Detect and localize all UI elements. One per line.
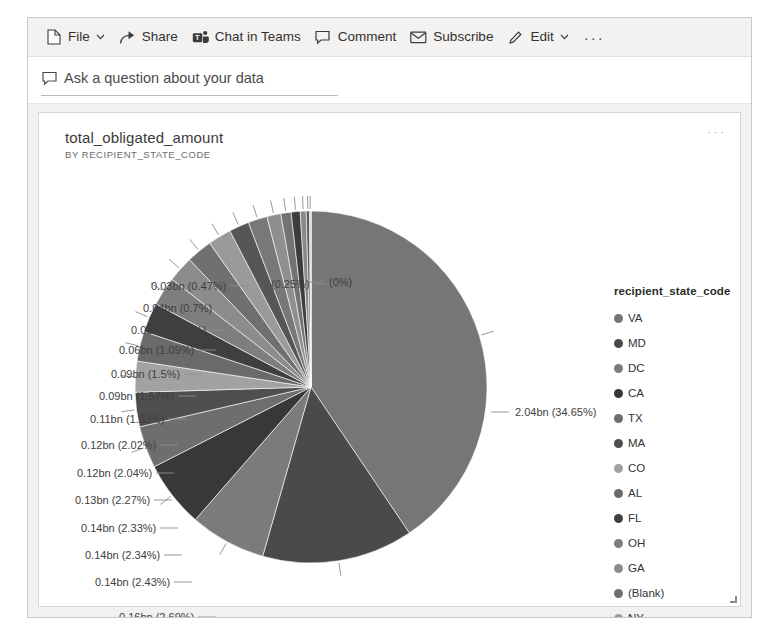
visual-resize-handle[interactable]: [730, 596, 737, 603]
pie-data-label: 0.05bn (0.81%): [131, 325, 206, 336]
leader-line: [253, 205, 257, 217]
legend-item-label: CA: [628, 388, 644, 400]
report-canvas: total_obligated_amount BY RECIPIENT_STAT…: [28, 104, 751, 617]
legend-item-ny[interactable]: NY: [614, 606, 752, 618]
legend-swatch-icon: [614, 364, 623, 373]
legend-item-label: MD: [628, 338, 646, 350]
legend-swatch-icon: [614, 439, 623, 448]
command-bar: File Share T C: [28, 18, 751, 57]
leader-line: [339, 563, 341, 576]
pie-data-label: 0.14bn (2.34%): [85, 550, 160, 561]
legend-item-label: NY: [628, 613, 644, 618]
pie-data-label: 0.12bn (2.02%): [81, 440, 156, 451]
teams-icon: T: [192, 29, 209, 46]
legend-item-tx[interactable]: TX: [614, 406, 752, 431]
legend-item-label: (Blank): [628, 588, 664, 600]
legend-swatch-icon: [614, 514, 623, 523]
leader-line: [233, 213, 238, 225]
legend-item-fl[interactable]: FL: [614, 506, 752, 531]
pie-chart-visual[interactable]: total_obligated_amount BY RECIPIENT_STAT…: [38, 112, 741, 607]
chart-legend: recipient_state_code VAMDDCCATXMACOALFLO…: [614, 285, 752, 618]
legend-item-md[interactable]: MD: [614, 331, 752, 356]
legend-swatch-icon: [614, 464, 623, 473]
legend-item-va[interactable]: VA: [614, 306, 752, 331]
legend-swatch-icon: [614, 389, 623, 398]
pencil-icon: [507, 29, 524, 46]
pie-data-label: 0.14bn (2.33%): [81, 523, 156, 534]
legend-swatch-icon: [614, 539, 623, 548]
comment-icon: [315, 29, 332, 46]
legend-item-label: FL: [628, 513, 641, 525]
leader-line: [169, 259, 179, 268]
leader-line: [294, 197, 295, 210]
pie-data-label: 0.09bn (1.5%): [111, 369, 180, 380]
pie-data-label: (0.25%): [271, 279, 310, 290]
qna-placeholder-text: Ask a question about your data: [64, 71, 264, 86]
command-edit-label: Edit: [530, 30, 553, 44]
legend-item-label: GA: [628, 563, 645, 575]
qna-speech-bubble-icon: [41, 70, 59, 88]
legend-swatch-icon: [614, 414, 623, 423]
legend-item-label: AL: [628, 488, 642, 500]
visual-title: total_obligated_amount: [65, 129, 223, 147]
legend-item-co[interactable]: CO: [614, 456, 752, 481]
legend-item-ma[interactable]: MA: [614, 431, 752, 456]
legend-item-al[interactable]: AL: [614, 481, 752, 506]
command-subscribe-label: Subscribe: [433, 30, 493, 44]
command-overflow-button[interactable]: ···: [576, 22, 613, 52]
legend-swatch-icon: [614, 489, 623, 498]
share-icon: [119, 29, 136, 46]
pie-data-label: 0.13bn (2.27%): [75, 495, 150, 506]
command-file-label: File: [68, 30, 90, 44]
pie-data-label: 0.06bn (1.09%): [119, 345, 194, 356]
legend-swatch-icon: [614, 564, 623, 573]
leader-line: [212, 224, 219, 235]
pie-data-label: 0.16bn (2.69%): [119, 612, 194, 618]
visual-subtitle: BY RECIPIENT_STATE_CODE: [65, 149, 223, 160]
pie-data-label: 0.11bn (1.83%): [90, 414, 164, 425]
file-icon: [45, 29, 62, 46]
leader-line: [481, 331, 493, 335]
qna-input-container[interactable]: Ask a question about your data: [41, 65, 338, 96]
leader-line: [122, 410, 135, 412]
command-edit[interactable]: Edit: [500, 22, 575, 52]
report-window: File Share T C: [27, 17, 752, 618]
legend-title: recipient_state_code: [614, 285, 752, 297]
legend-item-ga[interactable]: GA: [614, 556, 752, 581]
command-subscribe[interactable]: Subscribe: [403, 22, 500, 52]
pie-data-label: 0.03bn (0.47%): [151, 281, 226, 292]
visual-more-options-button[interactable]: ···: [707, 125, 726, 138]
legend-item-dc[interactable]: DC: [614, 356, 752, 381]
legend-swatch-icon: [614, 314, 623, 323]
visual-header: total_obligated_amount BY RECIPIENT_STAT…: [65, 129, 223, 160]
chevron-down-icon: [96, 34, 105, 40]
pie-data-label: 0.04bn (0.7%): [143, 303, 212, 314]
plot-area: 0.03bn (0.47%)(0.25%)(0%)0.04bn (0.7%)0.…: [39, 165, 740, 606]
leader-line: [220, 543, 226, 554]
command-share-label: Share: [142, 30, 178, 44]
svg-text:T: T: [195, 34, 200, 41]
legend-item-label: VA: [628, 313, 643, 325]
command-chat-in-teams-label: Chat in Teams: [215, 30, 301, 44]
pie-data-label: 0.09bn (1.57%): [99, 391, 174, 402]
legend-item-label: DC: [628, 363, 645, 375]
command-chat-in-teams[interactable]: T Chat in Teams: [185, 22, 308, 52]
command-share[interactable]: Share: [112, 22, 185, 52]
command-comment[interactable]: Comment: [308, 22, 404, 52]
leader-line: [303, 196, 304, 209]
legend-item-label: MA: [628, 438, 645, 450]
legend-item-ca[interactable]: CA: [614, 381, 752, 406]
pie-data-label: 2.04bn (34.65%): [515, 407, 596, 418]
command-file[interactable]: File: [38, 22, 112, 52]
legend-item-oh[interactable]: OH: [614, 531, 752, 556]
legend-swatch-icon: [614, 589, 623, 598]
chevron-down-icon: [560, 34, 569, 40]
pie-data-label: 0.14bn (2.43%): [95, 577, 170, 588]
legend-swatch-icon: [614, 339, 623, 348]
legend-item-label: TX: [628, 413, 643, 425]
legend-item-label: OH: [628, 538, 645, 550]
legend-swatch-icon: [614, 614, 623, 618]
pie-data-label: 0.12bn (2.04%): [77, 468, 152, 479]
pie-data-label: (0%): [329, 277, 352, 288]
legend-item-label: CO: [628, 463, 645, 475]
